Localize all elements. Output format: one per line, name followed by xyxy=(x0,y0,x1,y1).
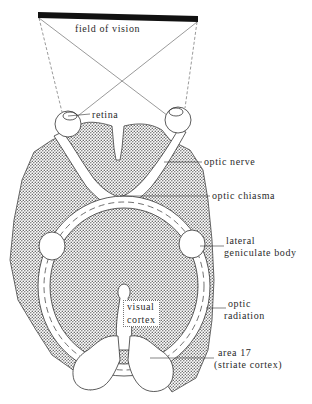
visual-cortex-label: visual cortex xyxy=(123,300,160,327)
area17-label-line2: (striate cortex) xyxy=(214,360,282,370)
area17-label-line1: area 17 xyxy=(218,348,251,358)
visual-cortex-label-line1: visual xyxy=(127,302,156,312)
visual-pathway-diagram xyxy=(0,0,312,404)
eyes xyxy=(55,107,191,137)
optic-radiation-label-line1: optic xyxy=(228,299,251,309)
field-of-vision-label: field of vision xyxy=(75,24,140,34)
lateral-geniculate-body-label-line2: geniculate body xyxy=(224,248,297,258)
visual-cortex-label-line2: cortex xyxy=(127,315,156,325)
optic-nerve-label: optic nerve xyxy=(204,157,255,167)
retina-label: retina xyxy=(92,110,118,120)
optic-radiation-label-line2: radiation xyxy=(224,311,265,321)
lateral-geniculate-body-label-line1: lateral xyxy=(226,236,255,246)
optic-chiasma-label: optic chiasma xyxy=(212,191,275,201)
field-of-vision-bar xyxy=(38,12,198,22)
